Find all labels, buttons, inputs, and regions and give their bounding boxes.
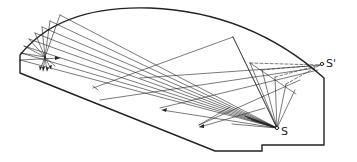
ray-right [100,37,318,128]
source-label: S [281,126,288,137]
image-source-label: S' [326,58,336,69]
image-source-point [320,62,323,65]
source-point [275,126,278,129]
ray-arrows [162,107,277,128]
image-source-lines [250,63,320,84]
ray-long [93,37,277,128]
diagram-canvas [0,0,357,162]
ray-fan-left [20,15,277,128]
